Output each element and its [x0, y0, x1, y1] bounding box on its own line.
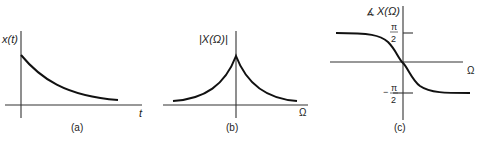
panel-b-y-label: |X(Ω)|	[199, 33, 228, 45]
panel-a-y-label: x(t)	[1, 33, 18, 45]
panel-c-tick-bottom-sign: −	[383, 87, 388, 97]
panel-c-caption: (c)	[394, 122, 406, 133]
panel-a: x(t) t (a)	[1, 31, 143, 133]
panel-a-x-label: t	[139, 107, 143, 119]
panel-c-y-label: X(Ω)	[376, 5, 400, 17]
panel-c: ∡ X(Ω) π 2 − π 2 Ω (c)	[330, 5, 475, 133]
panel-c-angle-symbol: ∡	[366, 6, 375, 17]
panel-b: |X(Ω)| Ω (b)	[163, 31, 308, 133]
panel-c-tick-top-numerator: π	[391, 22, 397, 32]
figure: x(t) t (a) |X(Ω)| Ω (b) ∡ X(Ω) π 2 − π 2…	[0, 0, 483, 142]
panel-c-x-label: Ω	[467, 65, 475, 76]
panel-b-magnitude-curve	[173, 56, 297, 101]
panel-b-x-label: Ω	[299, 107, 307, 118]
panel-b-caption: (b)	[226, 122, 238, 133]
panel-c-tick-bottom-numerator: π	[391, 83, 397, 93]
panel-a-decaying-exponential-curve	[21, 55, 118, 100]
panel-c-tick-bottom-denominator: 2	[391, 95, 396, 105]
panel-a-caption: (a)	[71, 122, 83, 133]
panel-c-tick-top-denominator: 2	[391, 34, 396, 44]
